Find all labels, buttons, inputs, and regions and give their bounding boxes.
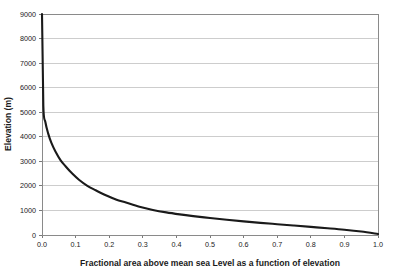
x-tick-label: 0.8 bbox=[306, 240, 316, 249]
y-tick-label: 0 bbox=[32, 231, 36, 240]
chart-svg: 0100020003000400050006000700080009000 0.… bbox=[0, 0, 393, 273]
y-axis-tick-labels: 0100020003000400050006000700080009000 bbox=[20, 10, 36, 240]
x-tick-label: 0.7 bbox=[272, 240, 282, 249]
x-tick-label: 0.9 bbox=[339, 240, 349, 249]
y-tick-label: 6000 bbox=[20, 83, 36, 92]
x-axis-tick-labels: 0.00.10.20.30.40.50.60.70.80.91.0 bbox=[37, 240, 383, 249]
y-tick-label: 9000 bbox=[20, 10, 36, 19]
x-tick-label: 0.2 bbox=[104, 240, 114, 249]
y-tick-label: 3000 bbox=[20, 157, 36, 166]
plot-area-border bbox=[42, 14, 378, 235]
x-axis-title: Fractional area above mean sea Level as … bbox=[80, 258, 340, 268]
y-tick-label: 7000 bbox=[20, 59, 36, 68]
x-tick-label: 0.6 bbox=[239, 240, 249, 249]
y-tick-label: 2000 bbox=[20, 181, 36, 190]
y-tick-label: 4000 bbox=[20, 132, 36, 141]
x-tick-label: 0.5 bbox=[205, 240, 215, 249]
data-series-hypsometric-curve bbox=[42, 14, 378, 234]
y-tick-label: 1000 bbox=[20, 206, 36, 215]
gridlines bbox=[42, 14, 378, 210]
y-tick-label: 5000 bbox=[20, 108, 36, 117]
y-axis-title: Elevation (m) bbox=[3, 97, 13, 151]
hypsometric-curve-chart: 0100020003000400050006000700080009000 0.… bbox=[0, 0, 393, 273]
x-tick-label: 1.0 bbox=[373, 240, 383, 249]
y-tick-label: 8000 bbox=[20, 34, 36, 43]
x-tick-label: 0.0 bbox=[37, 240, 47, 249]
x-tick-label: 0.3 bbox=[138, 240, 148, 249]
x-tick-label: 0.4 bbox=[171, 240, 181, 249]
x-tick-label: 0.1 bbox=[71, 240, 81, 249]
tick-marks bbox=[39, 14, 378, 238]
